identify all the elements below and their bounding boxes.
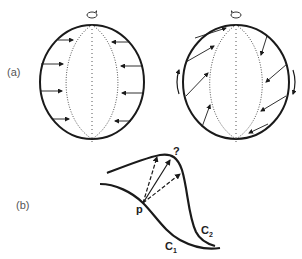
down-arrow-icon xyxy=(293,70,295,94)
left-sphere xyxy=(40,10,144,143)
curve-c2 xyxy=(107,155,215,246)
up-arrow-icon xyxy=(177,70,179,94)
panel-b-label: (b) xyxy=(16,199,29,211)
dashed-arrow xyxy=(143,174,180,203)
right-sphere xyxy=(177,10,295,143)
panel-b-diagram: p ? C1 C2 xyxy=(100,145,220,254)
dashed-arrow xyxy=(143,157,157,203)
figure: (a) (b) xyxy=(0,0,302,259)
solid-arrow xyxy=(143,160,170,203)
question-label: ? xyxy=(173,145,180,157)
rotation-icon xyxy=(231,10,241,18)
rotation-icon xyxy=(87,10,97,18)
c1-label: C1 xyxy=(165,240,177,254)
panel-a-label: (a) xyxy=(7,66,20,78)
point-p-label: p xyxy=(136,203,143,215)
c2-label: C2 xyxy=(201,224,213,238)
